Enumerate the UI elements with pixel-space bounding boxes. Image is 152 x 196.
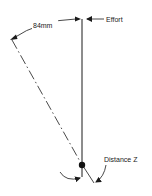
swing-line (12, 40, 82, 165)
pendulum-diagram: Effort 84mm Distance Z (0, 0, 152, 196)
arc-length-label: 84mm (33, 22, 53, 29)
effort-label: Effort (106, 16, 123, 23)
rotation-arrow (60, 172, 80, 179)
arc-start-arrowhead (10, 35, 18, 41)
offset-line (83, 166, 94, 183)
distance-z-label: Distance Z (104, 156, 138, 163)
distance-leader-arrow (96, 165, 106, 182)
